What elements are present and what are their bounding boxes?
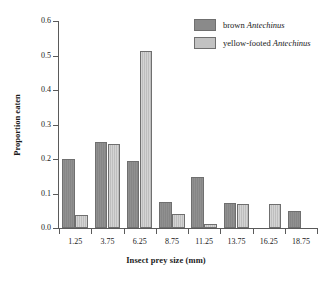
- x-axis-tick-label: 16.25: [260, 237, 278, 246]
- x-axis-tick-label: 6.25: [133, 237, 147, 246]
- legend: brown Antechinusyellow-footed Antechinus: [194, 17, 330, 53]
- y-axis-tick: [53, 228, 58, 229]
- x-axis-tick: [156, 229, 157, 234]
- bar: [288, 211, 301, 228]
- legend-item: brown Antechinus: [194, 17, 330, 32]
- y-axis-tick-label: 0.6: [41, 16, 51, 25]
- y-axis-tick-label: 0.3: [41, 120, 51, 129]
- bar: [204, 224, 217, 228]
- bar: [140, 51, 153, 228]
- x-axis-tick: [188, 229, 189, 234]
- bar: [62, 159, 75, 228]
- x-axis-tick: [253, 229, 254, 234]
- legend-label: brown Antechinus: [223, 20, 285, 30]
- x-axis-title: Insect prey size (mm): [0, 255, 332, 265]
- y-axis-tick: [53, 125, 58, 126]
- x-axis-tick: [91, 229, 92, 234]
- y-axis-title-text: Proportion eaten: [12, 94, 22, 155]
- y-axis-tick-label: 0.1: [41, 189, 51, 198]
- x-axis-tick-label: 18.75: [292, 237, 310, 246]
- y-axis-tick: [53, 159, 58, 160]
- y-axis-tick-label: 0.5: [41, 51, 51, 60]
- y-axis-tick: [53, 194, 58, 195]
- bar: [159, 202, 172, 228]
- bar: [237, 204, 250, 228]
- y-axis-tick: [53, 21, 58, 22]
- legend-item: yellow-footed Antechinus: [194, 35, 330, 50]
- legend-swatch: [194, 37, 216, 49]
- x-axis-tick: [59, 229, 60, 234]
- y-axis-tick: [53, 90, 58, 91]
- x-axis-tick-label: 1.25: [68, 237, 82, 246]
- y-axis-tick-label: 0.2: [41, 154, 51, 163]
- x-axis-tick-label: 11.25: [195, 237, 213, 246]
- x-axis-tick: [317, 229, 318, 234]
- bar: [95, 142, 108, 228]
- x-axis-tick-label: 13.75: [227, 237, 245, 246]
- legend-swatch: [194, 19, 216, 31]
- x-axis-tick: [124, 229, 125, 234]
- y-axis-tick: [53, 56, 58, 57]
- x-axis-tick: [285, 229, 286, 234]
- legend-label: yellow-footed Antechinus: [223, 38, 311, 48]
- legend-species-name: Antechinus: [273, 38, 311, 48]
- bar: [269, 204, 282, 228]
- x-axis-tick: [220, 229, 221, 234]
- bar: [191, 177, 204, 228]
- x-axis-tick-label: 8.75: [165, 237, 179, 246]
- y-axis-tick-label: 0.4: [41, 85, 51, 94]
- legend-species-name: Antechinus: [247, 20, 285, 30]
- bar: [75, 215, 88, 228]
- bar: [127, 161, 140, 228]
- bar-chart-figure: Proportion eaten 0.00.10.20.30.40.50.6 1…: [0, 0, 332, 281]
- x-axis-tick-label: 3.75: [100, 237, 114, 246]
- bar: [224, 203, 237, 228]
- y-axis-tick-label: 0.0: [41, 223, 51, 232]
- bar: [108, 144, 121, 228]
- y-axis-title: Proportion eaten: [10, 60, 24, 190]
- bar: [172, 214, 185, 228]
